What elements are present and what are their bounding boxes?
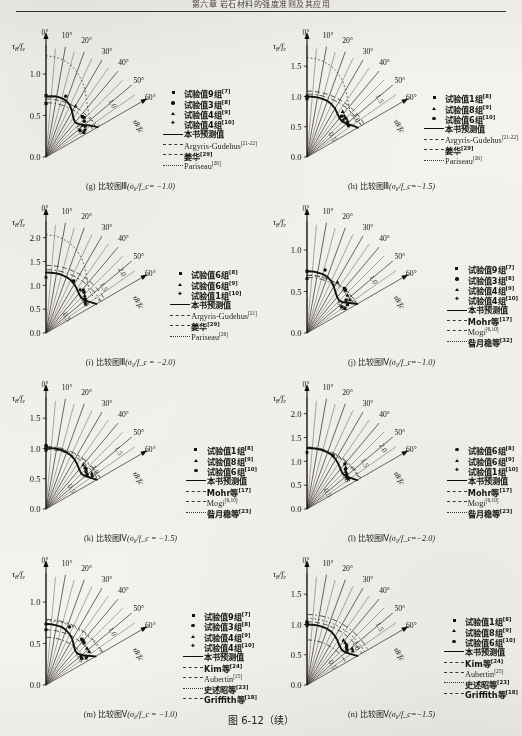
svg-text:1.0: 1.0 (30, 444, 41, 454)
legend-line-dashdot (186, 501, 206, 502)
legend-reference: [21-22] (502, 134, 518, 140)
legend-key-square (162, 88, 184, 98)
legend-key-square (185, 445, 207, 455)
legend-reference: [21] (248, 310, 257, 316)
running-head: 第六章 岩石材料的强度准则及其应用 (0, 0, 522, 16)
legend-item: Griffith等[18] (182, 693, 257, 703)
panel-caption: (h) 比较图Ⅲ(σ₈/f_c=−1.5) (261, 180, 522, 191)
legend-key-star: ✦ (446, 466, 468, 476)
legend-key-star: ✦ (162, 119, 184, 129)
panel-caption-title: 比较图Ⅳ (96, 534, 127, 543)
svg-text:30°: 30° (363, 399, 374, 408)
legend-reference: [32] (500, 337, 512, 343)
svg-text:1.0: 1.0 (30, 281, 41, 291)
plot-legend: 试验值9组[7]试验值3组[8]试验值4组[9]✦试验值4组[10]本书预测值K… (182, 610, 257, 704)
panel-caption-title: 比较图Ⅳ (358, 358, 389, 367)
legend-marker-triangle-icon (452, 629, 456, 632)
svg-text:50°: 50° (133, 428, 144, 437)
legend-key-triangle (423, 103, 445, 113)
legend-key-line (443, 678, 465, 688)
legend-reference: [26] (219, 331, 228, 337)
legend-reference: [23] (239, 508, 251, 514)
legend-line-dashdot (444, 672, 464, 673)
legend-line-dot (186, 512, 206, 513)
legend-marker-square-icon (172, 91, 175, 94)
plot-legend: 试验值9组[7]试验值3组[8]试验值4组[9]✦试验值4组[10]本书预测值M… (446, 263, 518, 346)
legend-key-line (446, 507, 468, 517)
legend-reference: [10] (483, 114, 495, 120)
svg-text:0.0: 0.0 (291, 328, 302, 338)
panel-caption-condition: (σ₈/f_c=−1.0) (389, 358, 435, 367)
svg-text:30°: 30° (363, 47, 374, 56)
legend-line-dash (447, 320, 467, 321)
svg-text:1.0: 1.0 (291, 620, 302, 630)
svg-text:1.5: 1.5 (98, 281, 110, 294)
legend-key-line (423, 145, 445, 155)
svg-text:0.0: 0.0 (291, 680, 302, 690)
svg-text:0.5: 0.5 (291, 287, 302, 297)
svg-text:1.5: 1.5 (30, 257, 41, 267)
svg-text:1.0: 1.0 (368, 273, 380, 286)
legend-key-line (169, 331, 191, 341)
legend-reference: [8] (503, 616, 512, 622)
legend-item-label: Pariseau[26] (191, 329, 228, 343)
legend-reference: [17] (238, 487, 250, 493)
legend-reference: [6,10] (486, 326, 499, 332)
svg-text:20°: 20° (342, 36, 353, 45)
svg-text:0.5: 0.5 (66, 483, 78, 496)
legend-reference: [10] (506, 466, 518, 472)
svg-text:40°: 40° (118, 58, 129, 67)
legend-line-dash (186, 491, 206, 492)
svg-text:40°: 40° (118, 410, 129, 419)
legend-marker-star-icon: ✦ (454, 467, 460, 474)
legend-key-line (162, 140, 184, 150)
svg-text:τ8/fc: τ8/fc (273, 394, 287, 404)
svg-text:20°: 20° (81, 212, 92, 221)
plot-legend: 试验值1组[8]试验值8组[9]试验值6组[10]本书预测值Mohr等[17]M… (185, 445, 257, 518)
panel-caption: (g) 比较图Ⅲ(σ₈/f_c= −1.0) (0, 180, 261, 191)
svg-text:20°: 20° (342, 388, 353, 397)
legend-reference: [10] (222, 119, 234, 125)
svg-text:1.0: 1.0 (30, 69, 41, 79)
legend-key-line (169, 310, 191, 320)
legend-key-line (162, 129, 184, 139)
legend-key-triangle (446, 455, 468, 465)
legend-line-dot (183, 688, 203, 689)
legend-reference: [10] (245, 466, 257, 472)
svg-text:1.5: 1.5 (291, 433, 302, 443)
legend-reference: [8] (242, 621, 251, 627)
panel-letter: (h) (348, 182, 358, 191)
legend-line-solid (447, 480, 467, 481)
legend-marker-triangle-icon (191, 635, 195, 638)
legend-key-line (185, 507, 207, 517)
legend-key-circle (443, 636, 465, 646)
legend-reference: [10] (242, 642, 254, 648)
legend-item: 试验值6组[10] (185, 465, 257, 475)
legend-item-label: 昝月稳等[23] (207, 506, 251, 519)
legend-reference: [8] (245, 445, 254, 451)
legend-line-dashdot (183, 677, 203, 678)
svg-text:30°: 30° (363, 223, 374, 232)
svg-text:0°: 0° (42, 556, 49, 565)
legend-marker-star-icon: ✦ (190, 643, 196, 650)
legend-item: ✦试验值4组[10] (162, 119, 257, 129)
legend-item-label: Griffith等[18] (204, 692, 257, 705)
legend-item: Griffith等[18] (443, 688, 518, 698)
panel-caption: (l) 比较图Ⅳ(σ₈/f_c=−2.0) (261, 532, 522, 543)
legend-marker-circle-icon (432, 117, 435, 120)
svg-text:τ8/fc: τ8/fc (273, 218, 287, 228)
legend-key-line (423, 155, 445, 165)
svg-text:30°: 30° (102, 223, 113, 232)
legend-marker-square-icon (455, 267, 458, 270)
legend-key-circle (446, 445, 468, 455)
svg-text:30°: 30° (363, 575, 374, 584)
legend-key-triangle (443, 626, 465, 636)
legend-line-solid (183, 656, 203, 657)
svg-text:50°: 50° (133, 604, 144, 613)
legend-key-star: ✦ (169, 290, 191, 300)
legend-marker-triangle-icon (194, 459, 198, 462)
legend-item: 试验值6组[10] (423, 113, 518, 123)
legend-marker-star-icon: ✦ (177, 291, 183, 298)
svg-text:60°: 60° (145, 269, 156, 278)
legend-marker-triangle-icon (455, 459, 459, 462)
